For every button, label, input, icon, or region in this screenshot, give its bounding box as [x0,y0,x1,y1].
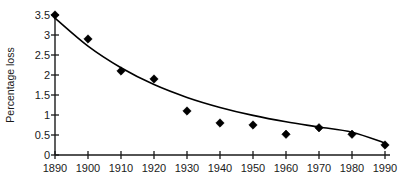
y-tick-label: 2.5 [35,49,50,61]
y-tick-label: 1 [44,109,50,121]
x-tick-label: 1890 [43,162,67,174]
x-tick-label: 1960 [274,162,298,174]
x-tick-label: 1950 [241,162,265,174]
x-axis-tick-labels: 1890190019101920193019401950196019701980… [43,162,397,174]
x-tick-label: 1990 [373,162,397,174]
data-point-marker [51,11,59,19]
data-point-marker [183,107,191,115]
y-tick-label: 1.5 [35,89,50,101]
x-tick-label: 1980 [340,162,364,174]
y-tick-label: 0 [44,149,50,161]
data-point-marker [315,124,323,132]
y-axis-tick-labels: 00.511.522.533.5 [35,9,50,161]
scatter-plot: Percentage loss 00.511.522.533.5 1890190… [0,0,401,189]
data-point-markers [51,11,389,149]
data-point-marker [150,75,158,83]
y-axis-title: Percentage loss [4,47,16,122]
chart-container: Percentage loss 00.511.522.533.5 1890190… [0,0,401,189]
x-tick-label: 1940 [208,162,232,174]
x-tick-label: 1970 [307,162,331,174]
data-point-marker [84,35,92,43]
y-tick-label: 0.5 [35,129,50,141]
data-point-marker [282,130,290,138]
y-tick-label: 2 [44,69,50,81]
y-tick-label: 3 [44,29,50,41]
y-tick-label: 3.5 [35,9,50,21]
x-tick-label: 1930 [175,162,199,174]
x-tick-label: 1900 [76,162,100,174]
data-point-marker [117,67,125,75]
data-point-marker [249,121,257,129]
data-point-marker [216,119,224,127]
x-tick-label: 1910 [109,162,133,174]
y-axis-title-group: Percentage loss [4,47,16,122]
x-tick-label: 1920 [142,162,166,174]
